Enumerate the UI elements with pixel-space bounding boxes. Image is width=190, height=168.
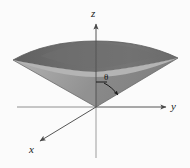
x-axis-label: x xyxy=(29,144,34,155)
theta-angle-label: θ xyxy=(104,73,108,82)
cone-coordinate-diagram: z y x θ xyxy=(0,0,190,168)
z-axis-label: z xyxy=(91,8,95,19)
y-axis-label: y xyxy=(171,101,176,112)
x-axis xyxy=(40,107,96,141)
